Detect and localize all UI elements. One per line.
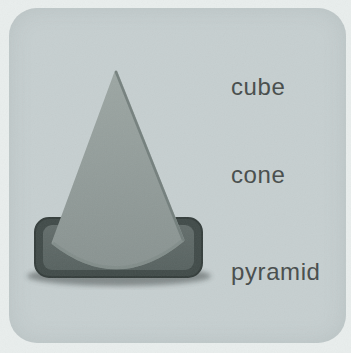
option-label-pyramid[interactable]: pyramid <box>231 258 321 286</box>
answer-options: cube cone pyramid <box>231 0 341 353</box>
option-label-cube[interactable]: cube <box>231 73 285 101</box>
option-label-cone[interactable]: cone <box>231 161 285 189</box>
quiz-panel: cube cone pyramid <box>0 0 351 353</box>
